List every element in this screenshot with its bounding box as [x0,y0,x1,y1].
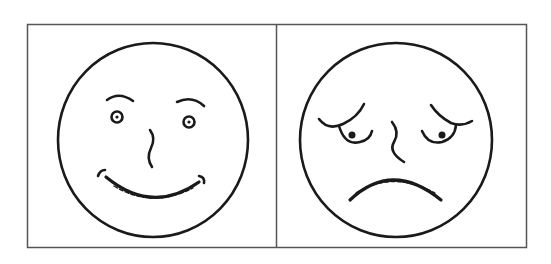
faces-figure [0,0,551,264]
happy-face [58,43,248,237]
sad-face [300,43,492,237]
smile-mouth-icon [106,177,199,197]
nose-icon [392,122,404,162]
left-eye-icon [339,126,372,143]
left-eyebrow-icon [319,104,364,127]
right-eyebrow-icon [177,99,204,106]
left-dimple-icon [98,170,105,176]
nose-icon [149,130,154,167]
right-eyebrow-icon [431,105,472,125]
left-eyebrow-icon [107,96,133,101]
